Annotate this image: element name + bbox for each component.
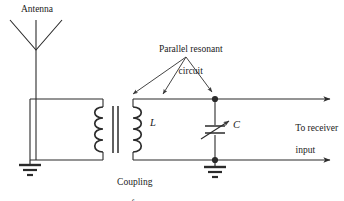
- capacitor-label: C: [233, 119, 240, 130]
- antenna-icon: [10, 20, 62, 160]
- primary-loop-wires: [30, 99, 103, 160]
- antenna-label: Antenna: [8, 4, 66, 15]
- ground-right-icon: [204, 160, 226, 177]
- to-receiver-line-2: input: [296, 145, 316, 155]
- tank-circuit-wires: [133, 99, 215, 160]
- transformer-secondary-coil: [133, 107, 141, 152]
- parallel-resonant-line-1: Parallel resonant: [159, 44, 223, 54]
- transformer-primary-coil: [95, 107, 103, 152]
- inductor-label: L: [150, 117, 156, 128]
- coupling-transformer-label: Coupling transformer: [74, 166, 186, 201]
- to-receiver-line-1: To receiver: [295, 123, 338, 133]
- ground-left-icon: [19, 160, 41, 175]
- parallel-resonant-circuit-label: Parallel resonant circuit: [140, 33, 232, 88]
- circuit-diagram-figure: Antenna Parallel resonant circuit L C To…: [0, 0, 344, 201]
- to-receiver-input-label: To receiver input: [286, 112, 344, 167]
- transformer-core-icon: [113, 106, 118, 153]
- coupling-transformer-line-2: transformer: [113, 199, 157, 201]
- parallel-resonant-line-2: circuit: [179, 66, 203, 76]
- coupling-transformer-line-1: Coupling: [117, 177, 152, 187]
